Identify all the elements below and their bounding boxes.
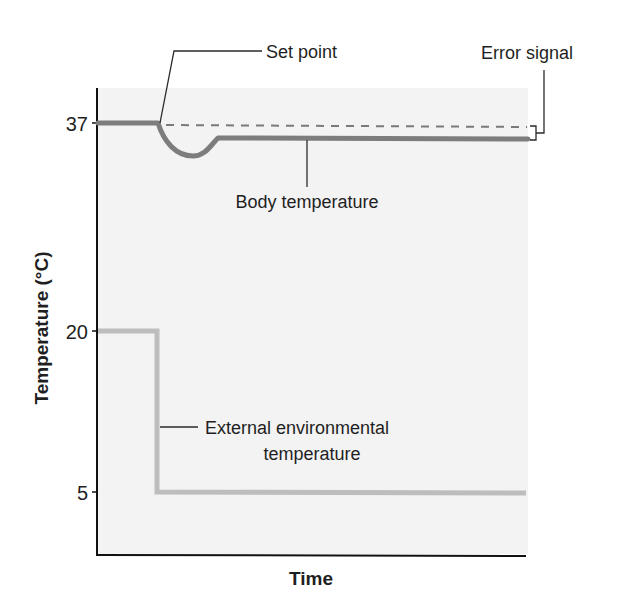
error-signal-label: Error signal [481, 43, 573, 63]
error-signal-bracket [530, 126, 536, 140]
y-axis-title: Temperature (°C) [31, 252, 52, 405]
external-temperature-label-line1: External environmental [205, 418, 389, 438]
y-tick-label-20: 20 [66, 321, 88, 343]
set-point-label: Set point [266, 42, 337, 62]
error-signal-leader [536, 70, 544, 133]
y-tick-label-5: 5 [77, 482, 88, 504]
body-temperature-label: Body temperature [235, 192, 378, 212]
external-temperature-label-line2: temperature [263, 444, 360, 464]
chart: 37 20 5 Temperature (°C) Time Set point … [0, 0, 617, 606]
x-axis [96, 555, 526, 556]
plot-background [98, 88, 528, 554]
y-tick-label-37: 37 [66, 113, 88, 135]
x-axis-title: Time [289, 568, 333, 589]
